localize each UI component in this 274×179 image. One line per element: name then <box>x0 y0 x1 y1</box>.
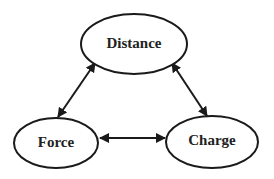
node-distance-label: Distance <box>107 35 162 51</box>
node-distance: Distance <box>81 14 187 74</box>
node-charge: Charge <box>166 116 258 168</box>
edge-force-distance <box>58 63 95 117</box>
edge-distance-charge <box>172 63 207 116</box>
node-force-label: Force <box>38 134 75 150</box>
node-charge-label: Charge <box>188 132 236 148</box>
node-force: Force <box>14 118 98 168</box>
relationship-diagram: Distance Force Charge <box>0 0 274 179</box>
